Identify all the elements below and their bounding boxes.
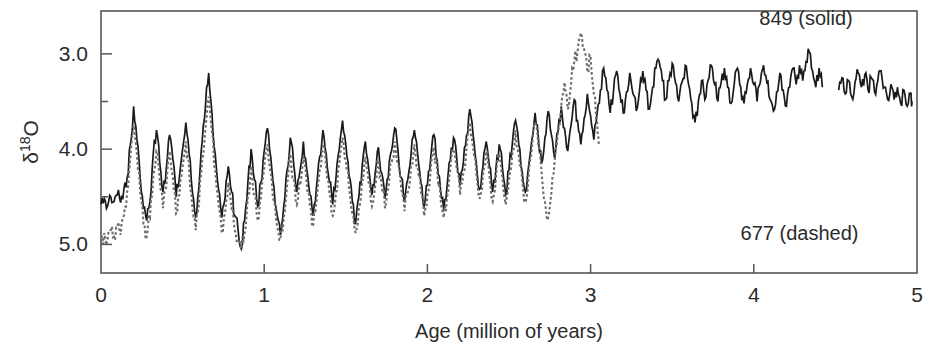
x-tick-label-5: 5 [911,283,923,306]
series-line-677 [101,33,599,249]
x-axis-ticks [264,264,754,273]
x-tick-label-1: 1 [258,283,270,306]
x-tick-label-2: 2 [422,283,434,306]
y-axis-title-superscript: 18 [17,136,33,152]
series-line-849 [839,69,912,106]
delta-o18-line-chart: 3.04.05.0 012345 δ18O Age (million of ye… [0,0,945,356]
x-tick-label-0: 0 [95,283,107,306]
legend-849: 849 (solid) [759,7,852,29]
y-axis-title-tail: O [19,120,42,136]
y-tick-label-4.0: 4.0 [59,137,88,160]
y-tick-label-3.0: 3.0 [59,42,88,65]
chart-page: 3.04.05.0 012345 δ18O Age (million of ye… [0,0,945,356]
y-tick-label-5.0: 5.0 [59,232,88,255]
x-tick-label-4: 4 [748,283,760,306]
data-series-group [101,33,912,249]
series-line-849 [101,49,822,249]
x-axis-title: Age (million of years) [415,320,603,342]
y-axis-title-text: δ18O [17,120,42,164]
x-tick-label-3: 3 [585,283,597,306]
y-axis-tick-labels: 3.04.05.0 [59,42,88,256]
x-axis-tick-labels: 012345 [95,283,923,306]
y-axis-ticks [101,54,112,245]
y-axis-title: δ18O [17,120,42,164]
legend-677: 677 (dashed) [741,222,859,244]
y-axis-title-delta: δ [19,152,42,164]
legend-annotations: 849 (solid)677 (dashed) [741,7,859,243]
